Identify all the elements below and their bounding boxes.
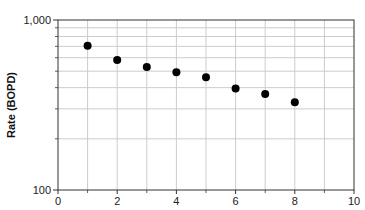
data-point (84, 42, 92, 50)
gridlines (58, 20, 354, 190)
data-point (291, 98, 299, 106)
data-point (202, 73, 210, 81)
data-point (232, 84, 240, 92)
data-point (143, 63, 151, 71)
y-axis-title: Rate (BOPD) (5, 72, 17, 138)
x-tick-label: 6 (233, 195, 239, 207)
chart-svg: 02468101001,000 Rate (BOPD) (0, 0, 365, 210)
y-tick-label: 1,000 (23, 14, 51, 26)
x-tick-label: 2 (114, 195, 120, 207)
data-point (172, 68, 180, 76)
x-tick-label: 10 (348, 195, 360, 207)
chart: 02468101001,000 Rate (BOPD) (0, 0, 365, 210)
x-tick-label: 0 (55, 195, 61, 207)
data-point (261, 90, 269, 98)
x-tick-label: 8 (292, 195, 298, 207)
tick-labels: 02468101001,000 (23, 14, 360, 207)
data-point (113, 56, 121, 64)
x-tick-label: 4 (173, 195, 179, 207)
data-points (84, 42, 299, 107)
y-tick-label: 100 (33, 184, 51, 196)
